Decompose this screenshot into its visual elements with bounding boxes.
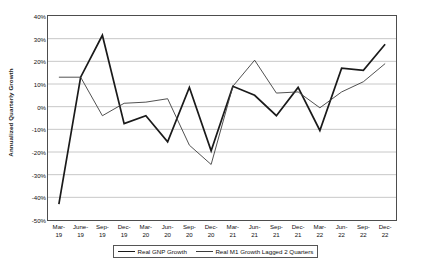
x-axis-tick-label: Dec-22 — [370, 223, 400, 239]
x-tick-month: Jun- — [249, 223, 261, 230]
x-tick-month: Mar- — [53, 223, 66, 230]
x-tick-month: Dec- — [205, 223, 218, 230]
legend-line-swatch-icon — [196, 251, 213, 252]
legend-label: Real GNP Growth — [138, 248, 187, 255]
x-tick-month: Sep- — [270, 223, 283, 230]
x-tick-month: Sep- — [96, 223, 109, 230]
y-axis-tick-label: 40% — [20, 13, 46, 20]
y-axis-tick-label: -30% — [20, 171, 46, 178]
x-tick-month: Mar- — [140, 223, 153, 230]
x-tick-month: Mar- — [227, 223, 240, 230]
legend-label: Real M1 Growth Lagged 2 Quarters — [215, 248, 313, 255]
data-series-line — [59, 60, 385, 164]
x-tick-month: June- — [73, 223, 88, 230]
y-axis-title-label: Annualized Quarterly Growth — [7, 68, 14, 156]
y-axis-tick-label: -40% — [20, 194, 46, 201]
x-tick-month: Jun- — [336, 223, 348, 230]
plot-area — [47, 15, 397, 221]
y-axis-tick-label: -50% — [20, 217, 46, 224]
chart-legend: Real GNP GrowthReal M1 Growth Lagged 2 Q… — [113, 245, 318, 258]
plot-svg — [48, 16, 396, 220]
y-axis-tick-label: -10% — [20, 126, 46, 133]
legend-entry[interactable]: Real GNP Growth — [118, 248, 187, 255]
y-axis-tick-label: 0% — [20, 103, 46, 110]
y-axis-title: Annualized Quarterly Growth — [0, 0, 20, 225]
y-axis-tick-label: -20% — [20, 149, 46, 156]
x-tick-month: Sep- — [183, 223, 196, 230]
x-tick-month: Dec- — [292, 223, 305, 230]
x-tick-year: 22 — [370, 231, 400, 239]
chart-container: Annualized Quarterly Growth 40%30%20%10%… — [0, 0, 423, 268]
y-axis-tick-label: 10% — [20, 81, 46, 88]
data-series-line — [59, 35, 385, 204]
y-axis-tick-label: 20% — [20, 58, 46, 65]
y-axis-tick-label: 30% — [20, 35, 46, 42]
x-tick-month: Sep- — [357, 223, 370, 230]
y-axis-tick-labels: 40%30%20%10%0%-10%-20%-30%-40%-50% — [18, 0, 46, 225]
legend-line-swatch-icon — [118, 251, 135, 252]
x-tick-month: Mar- — [314, 223, 327, 230]
x-tick-month: Dec- — [118, 223, 131, 230]
x-axis-tick-labels: Mar-19June-19Sep-19Dec-19Mar-20Jun-20Sep… — [47, 223, 397, 247]
x-tick-month: Dec- — [379, 223, 392, 230]
x-tick-month: Jun- — [162, 223, 174, 230]
legend-entry[interactable]: Real M1 Growth Lagged 2 Quarters — [196, 248, 314, 255]
